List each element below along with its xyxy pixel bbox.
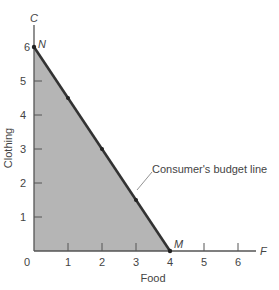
y-tick-label-2: 2 [20,177,26,189]
x-tick-label-3: 3 [133,256,139,268]
x-tick-label-4: 4 [167,256,173,268]
point-label-m: M [174,238,184,250]
annotation-budget-line: Consumer's budget line [152,163,267,175]
y-tick-label-4: 4 [20,109,26,121]
x-tick-label-2: 2 [99,256,105,268]
x-tick-label-1: 1 [65,256,71,268]
x-tick-label-0: 0 [24,256,30,268]
x-tick-label-5: 5 [201,256,207,268]
y-tick-label-6: 6 [24,41,30,53]
x-axis-title: Food [140,272,165,284]
annotation-leader [137,172,152,190]
point-label-n: N [38,38,46,50]
budget-line-chart: Consumer's budget line C F N M 1 2 3 4 5… [0,0,279,290]
y-tick-label-3: 3 [20,143,26,155]
y-axis-end-label: C [30,12,38,24]
x-tick-label-6: 6 [235,256,241,268]
x-axis-end-label: F [260,245,268,257]
y-tick-label-1: 1 [20,211,26,223]
y-tick-label-5: 5 [20,75,26,87]
y-axis-title: Clothing [2,128,14,168]
